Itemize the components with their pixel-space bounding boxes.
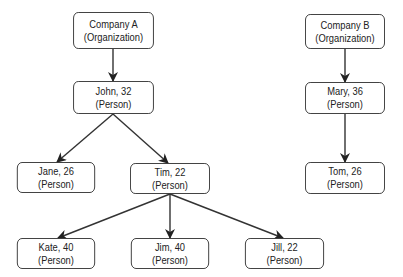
node-type: (Person) (38, 178, 74, 191)
node-type: (Person) (267, 254, 303, 267)
node-name: Jim, 40 (155, 241, 185, 254)
node-type: (Person) (38, 254, 74, 267)
node-jane: Jane, 26 (Person) (17, 162, 95, 193)
node-type: (Person) (152, 179, 188, 192)
node-company-b: Company B (Organization) (305, 14, 385, 49)
node-type: (Person) (327, 98, 363, 111)
org-tree-diagram: Company A (Organization) John, 32 (Perso… (0, 0, 403, 277)
node-tom: Tom, 26 (Person) (305, 162, 385, 194)
node-company-a: Company A (Organization) (73, 12, 154, 49)
edge-arrow-john-jane (57, 114, 113, 162)
node-type: (Person) (327, 178, 363, 191)
node-john: John, 32 (Person) (73, 81, 154, 114)
edge-arrow-john-tim (113, 114, 168, 163)
node-name: Tim, 22 (155, 166, 186, 179)
node-name: Company A (89, 18, 137, 31)
node-tim: Tim, 22 (Person) (130, 163, 210, 194)
node-name: Kate, 40 (39, 241, 74, 254)
node-kate: Kate, 40 (Person) (17, 238, 95, 269)
edge-arrow-tim-jill (170, 194, 283, 238)
node-type: (Organization) (315, 32, 374, 45)
node-name: Jane, 26 (38, 165, 74, 178)
node-name: John, 32 (96, 85, 132, 98)
node-type: (Organization) (84, 31, 143, 44)
node-jim: Jim, 40 (Person) (131, 238, 209, 269)
node-name: Mary, 36 (327, 85, 363, 98)
node-name: Jill, 22 (271, 241, 298, 254)
node-type: (Person) (152, 254, 188, 267)
edge-arrow-tim-kate (58, 194, 170, 238)
node-type: (Person) (96, 98, 132, 111)
node-jill: Jill, 22 (Person) (245, 238, 324, 269)
node-name: Tom, 26 (328, 165, 361, 178)
node-name: Company B (321, 19, 370, 32)
node-mary: Mary, 36 (Person) (305, 82, 385, 114)
